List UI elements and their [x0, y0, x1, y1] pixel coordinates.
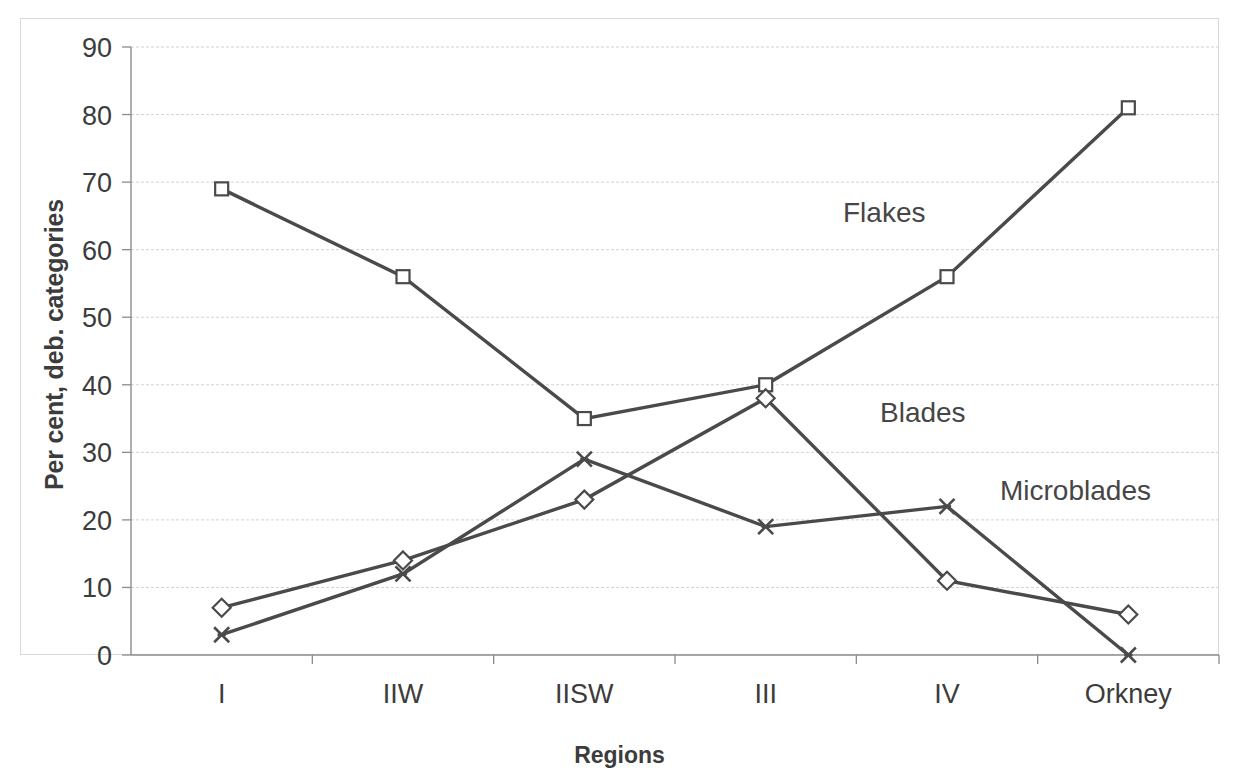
- data-point-marker: [213, 599, 231, 617]
- series-blades: [213, 389, 1138, 623]
- y-tick-label: 30: [82, 438, 112, 468]
- series-line-flakes: [222, 108, 1129, 419]
- series-label-flakes: Flakes: [843, 197, 925, 228]
- data-series-group: [213, 101, 1138, 662]
- chart-figure: 0102030405060708090 IIIWIISWIIIIVOrkney …: [0, 0, 1239, 782]
- x-tick-label: III: [754, 679, 777, 709]
- y-tick-label: 40: [82, 371, 112, 401]
- x-tick-label: I: [218, 679, 226, 709]
- series-annotations: FlakesBladesMicroblades: [843, 197, 1151, 506]
- data-point-marker: [1119, 605, 1137, 623]
- data-point-marker: [1122, 101, 1135, 114]
- data-point-marker: [578, 412, 591, 425]
- x-tick-labels: IIIWIISWIIIIVOrkney: [218, 679, 1172, 709]
- series-label-blades: Blades: [880, 397, 966, 428]
- y-tick-label: 60: [82, 236, 112, 266]
- y-tick-label: 10: [82, 573, 112, 603]
- series-line-blades: [222, 398, 1129, 614]
- y-tick-label: 0: [97, 641, 112, 671]
- line-chart-canvas: 0102030405060708090 IIIWIISWIIIIVOrkney …: [0, 0, 1239, 782]
- x-axis-title: Regions: [0, 742, 1239, 769]
- y-tick-label: 90: [82, 33, 112, 63]
- tick-marks: [122, 47, 1219, 664]
- data-point-marker: [941, 270, 954, 283]
- data-point-marker: [215, 182, 228, 195]
- x-tick-label: IISW: [555, 679, 614, 709]
- series-label-microblades: Microblades: [1000, 475, 1151, 506]
- data-point-marker: [397, 270, 410, 283]
- series-line-microblades: [222, 459, 1129, 655]
- y-axis-title: Per cent, deb. categories: [40, 45, 69, 645]
- data-point-marker: [577, 452, 592, 467]
- y-tick-label: 80: [82, 101, 112, 131]
- x-tick-label: IIW: [383, 679, 424, 709]
- y-tick-label: 50: [82, 303, 112, 333]
- series-microblades: [214, 452, 1136, 663]
- x-tick-label: IV: [934, 679, 960, 709]
- gridlines: [131, 47, 1219, 587]
- y-tick-labels: 0102030405060708090: [82, 33, 112, 671]
- data-point-marker: [575, 491, 593, 509]
- x-tick-label: Orkney: [1085, 679, 1173, 709]
- y-tick-label: 70: [82, 168, 112, 198]
- series-flakes: [215, 101, 1135, 425]
- y-tick-label: 20: [82, 506, 112, 536]
